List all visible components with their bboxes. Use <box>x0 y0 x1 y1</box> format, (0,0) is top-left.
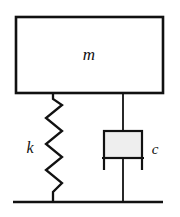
damper-label: c <box>152 141 159 157</box>
damper-cylinder <box>104 131 142 158</box>
mass-spring-damper-diagram: m k c <box>0 0 180 217</box>
mass-label: m <box>83 45 95 64</box>
spring-coil <box>46 93 62 202</box>
spring-label: k <box>26 139 34 156</box>
diagram-canvas: m k c <box>0 0 180 217</box>
